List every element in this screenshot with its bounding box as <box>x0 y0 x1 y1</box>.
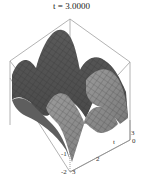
x-tick-2: 2 <box>96 155 100 163</box>
y-tick-3: 3 <box>131 129 135 137</box>
surface-plot: -1 -2 3 2 t 0 3 <box>0 0 143 178</box>
axis-label-t: t <box>113 138 115 146</box>
x-tick-3: 3 <box>72 168 76 176</box>
z-tick-neg1: -1 <box>61 150 67 158</box>
z-tick-neg2: -2 <box>61 168 67 176</box>
y-tick-0: 0 <box>132 137 136 145</box>
surface-mesh <box>12 30 128 162</box>
